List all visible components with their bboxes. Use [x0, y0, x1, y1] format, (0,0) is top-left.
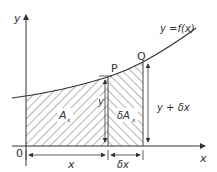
- strip-delta-a-label: δA x: [116, 108, 138, 123]
- y-axis-label: y: [13, 12, 21, 25]
- x-span-label: x: [67, 158, 75, 171]
- svg-text:A: A: [58, 109, 67, 122]
- area-a-x-label: A x: [57, 108, 73, 123]
- area-under-curve-diagram: y x 0 y =f(x) P Q A x δA x y y + δx x δx: [0, 0, 217, 172]
- origin-label: 0: [16, 147, 23, 160]
- svg-text:x: x: [66, 116, 71, 123]
- point-p-label: P: [111, 62, 118, 75]
- svg-text:δA: δA: [117, 110, 130, 121]
- left-height-label: y: [97, 96, 105, 107]
- right-height-label: y + δx: [156, 102, 190, 113]
- curve-label: y =f(x): [159, 23, 195, 34]
- dx-span-label: δx: [117, 159, 129, 170]
- x-axis-label: x: [199, 152, 207, 165]
- svg-text:x: x: [131, 116, 136, 123]
- point-q-label: Q: [137, 50, 146, 63]
- svg-text:y: y: [97, 96, 105, 107]
